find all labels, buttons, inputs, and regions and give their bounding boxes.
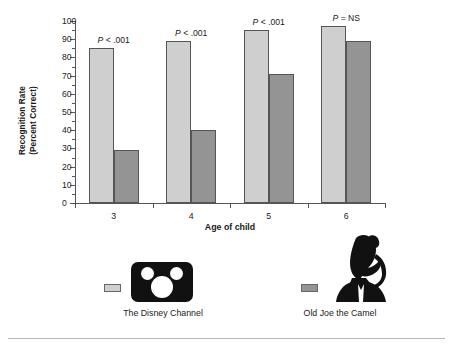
bottom-divider (8, 338, 445, 339)
bar-old-joe-the-camel-age-6 (346, 41, 371, 203)
bar-the-disney-channel-age-4 (166, 41, 191, 203)
y-tick-label: 60 (62, 89, 65, 99)
y-tick-label: 20 (62, 162, 65, 172)
x-tick (385, 203, 386, 208)
x-tick-label: 5 (266, 211, 271, 221)
y-tick-label: 30 (62, 143, 65, 153)
x-tick (153, 203, 154, 208)
mickey-head-icon (151, 276, 173, 298)
y-tick-label: 80 (62, 52, 65, 62)
x-tick (75, 203, 76, 208)
mickey-mouse-logo-icon (131, 262, 193, 302)
legend-swatch-disney (104, 284, 121, 292)
y-tick-minor (72, 85, 75, 86)
y-tick-label: 10 (62, 180, 65, 190)
bar-the-disney-channel-age-3 (89, 48, 114, 203)
mickey-ear-right-icon (170, 267, 183, 280)
y-axis-line (75, 21, 76, 203)
x-axis-title: Age of child (75, 222, 385, 232)
y-axis-title: Recognition Rate (Percent Correct) (18, 46, 39, 196)
bar-the-disney-channel-age-5 (244, 30, 269, 203)
x-tick (230, 203, 231, 208)
y-axis-title-line1: Recognition Rate (18, 46, 29, 196)
bar-old-joe-the-camel-age-4 (191, 130, 216, 203)
p-value-label-age-3: P < .001 (98, 35, 130, 45)
plot-area: 0102030405060708090100 3456 P < .001P < … (75, 21, 385, 203)
y-tick-minor (72, 139, 75, 140)
legend: The Disney Channel (0, 248, 453, 328)
p-value-label-age-6: P = NS (333, 13, 360, 23)
x-tick-label: 6 (344, 211, 349, 221)
figure-bar-chart: Recognition Rate (Percent Correct) 01020… (0, 0, 453, 347)
legend-swatch-camel (301, 284, 318, 292)
y-tick-minor (72, 121, 75, 122)
y-tick-label: 100 (62, 16, 65, 26)
y-tick-label: 90 (62, 34, 65, 44)
x-tick-label: 3 (111, 211, 116, 221)
y-tick-label: 70 (62, 71, 65, 81)
y-tick-minor (72, 194, 75, 195)
camel-silhouette-logo-icon (330, 234, 392, 302)
y-tick-minor (72, 176, 75, 177)
bar-old-joe-the-camel-age-5 (269, 74, 294, 203)
y-tick-minor (72, 48, 75, 49)
y-tick-minor (72, 30, 75, 31)
y-axis-title-line2: (Percent Correct) (28, 46, 39, 196)
y-tick-label: 40 (62, 125, 65, 135)
legend-label-disney: The Disney Channel (83, 308, 243, 318)
x-tick-label: 4 (189, 211, 194, 221)
x-tick (308, 203, 309, 208)
y-tick-label: 0 (62, 198, 65, 208)
bar-old-joe-the-camel-age-3 (114, 150, 139, 203)
p-value-label-age-5: P < .001 (253, 17, 285, 27)
y-tick-minor (72, 158, 75, 159)
legend-label-camel: Old Joe the Camel (260, 308, 420, 318)
bar-the-disney-channel-age-6 (321, 26, 346, 203)
mickey-ear-left-icon (141, 267, 154, 280)
y-tick-minor (72, 67, 75, 68)
y-tick-label: 50 (62, 107, 65, 117)
p-value-label-age-4: P < .001 (175, 28, 207, 38)
y-tick-minor (72, 103, 75, 104)
